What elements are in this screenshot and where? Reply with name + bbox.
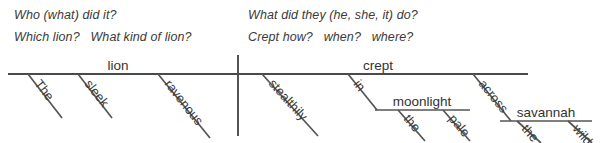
- prep-object-modifier-2b: wild: [569, 121, 596, 143]
- sentence-diagram: lion The sleek ravenous crept stealthily…: [0, 0, 605, 143]
- predicate-headword: crept: [363, 58, 393, 73]
- subject-modifier-3: ravenous: [162, 77, 207, 129]
- prep-object-2: savannah: [517, 105, 576, 120]
- prep-object-modifier-1b: pale: [446, 111, 473, 139]
- sentence-diagram-page: Who (what) did it? Which lion? What kind…: [0, 0, 605, 143]
- predicate-modifier-1: stealthily: [266, 76, 311, 124]
- prep-object-1: moonlight: [393, 94, 452, 109]
- subject-modifier-2: sleek: [82, 77, 113, 111]
- subject-modifier-1: The: [32, 77, 58, 104]
- subject-headword: lion: [107, 58, 128, 73]
- prep-object-modifier-1a: the: [401, 111, 424, 134]
- preposition-2: across: [476, 76, 512, 116]
